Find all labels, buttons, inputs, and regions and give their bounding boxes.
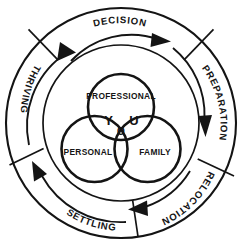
venn-label-family: FAMILY <box>139 147 171 157</box>
settling-arrow-head <box>32 161 47 182</box>
stage-label-settling: SETTLING <box>65 206 117 232</box>
venn-overlap-letter-o: O <box>117 126 125 137</box>
decision-arrow-line <box>71 35 159 61</box>
venn-label-professional: PROFESSIONAL <box>86 91 156 101</box>
decision-arrow-head <box>151 33 172 47</box>
venn-label-personal: PERSONAL <box>64 147 113 157</box>
you-venn-group: PROFESSIONAL PERSONAL FAMILY Y O U <box>62 74 181 182</box>
divider-thriving-decision <box>29 29 58 60</box>
divider-settling-thriving <box>10 149 44 166</box>
divider-decision-preparation <box>184 29 213 60</box>
diagram-canvas: DECISION PREPARATION RELOCATION SETTLING… <box>0 0 242 249</box>
relocation-arrow-head <box>128 201 148 217</box>
preparation-arrow-head <box>198 115 212 137</box>
venn-overlap-letter-u: U <box>129 113 138 128</box>
venn-overlap-letter-y: Y <box>104 113 113 128</box>
stage-label-thriving: THRIVING <box>19 63 44 114</box>
relocation-cycle-diagram: DECISION PREPARATION RELOCATION SETTLING… <box>0 0 242 249</box>
stage-label-decision: DECISION <box>92 14 148 29</box>
